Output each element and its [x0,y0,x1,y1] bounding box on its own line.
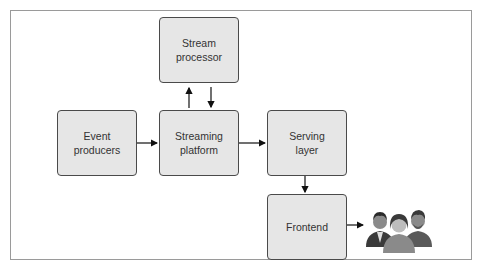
users-group-icon [364,203,434,253]
